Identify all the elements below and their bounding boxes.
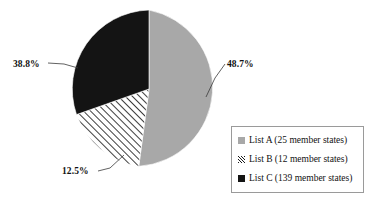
data-label-list-a: 48.7% — [227, 59, 254, 69]
legend-item-label: List A (25 member states) — [249, 136, 347, 146]
black-square-swatch-icon — [238, 175, 245, 182]
pie-chart-figure: 48.7% 12.5% 38.8% List A (25 member stat… — [0, 0, 372, 202]
legend-item-list-c[interactable]: List C (139 member states) — [238, 170, 359, 187]
legend-item-list-a[interactable]: List A (25 member states) — [238, 132, 359, 149]
hatched-square-swatch-icon — [238, 156, 245, 163]
leader-line-list-c — [48, 63, 78, 68]
pie-slice-list-a[interactable] — [139, 10, 213, 166]
data-label-list-c: 38.8% — [13, 59, 40, 69]
gray-square-swatch-icon — [238, 137, 245, 144]
legend-item-list-b[interactable]: List B (12 member states) — [238, 151, 359, 168]
data-label-list-b: 12.5% — [62, 166, 89, 176]
legend-item-label: List C (139 member states) — [249, 174, 352, 184]
chart-legend: List A (25 member states) List B (12 mem… — [231, 126, 364, 193]
legend-item-label: List B (12 member states) — [249, 155, 348, 165]
